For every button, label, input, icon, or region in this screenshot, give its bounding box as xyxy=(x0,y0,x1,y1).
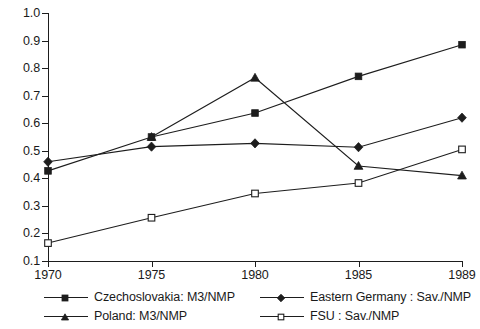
filled-triangle-icon xyxy=(44,308,88,325)
legend-label: Czechoslovakia: M3/NMP xyxy=(88,291,235,304)
data-point-marker xyxy=(354,143,363,152)
filled-diamond-icon xyxy=(260,289,304,306)
data-point-marker xyxy=(355,73,362,80)
legend-label: FSU : Sav./NMP xyxy=(304,310,399,323)
series-filled-square xyxy=(45,41,466,174)
open-square-icon xyxy=(260,308,304,325)
legend-label: Eastern Germany : Sav./NMP xyxy=(304,291,471,304)
data-point-marker xyxy=(45,240,52,247)
filled-square-icon xyxy=(44,289,88,306)
data-point-marker xyxy=(459,41,466,48)
data-point-marker xyxy=(459,146,466,153)
legend-label: Poland: M3/NMP xyxy=(88,310,187,323)
data-point-marker xyxy=(458,113,467,122)
legend-item-fsu: FSU : Sav./NMP xyxy=(260,308,399,325)
data-point-marker xyxy=(355,180,362,187)
data-point-marker xyxy=(252,110,259,117)
legend-item-eastern-germany: Eastern Germany : Sav./NMP xyxy=(260,289,471,306)
chart-legend: Czechoslovakia: M3/NMP Poland: M3/NMP Ea… xyxy=(44,289,464,327)
data-point-marker xyxy=(252,190,259,197)
legend-item-czechoslovakia: Czechoslovakia: M3/NMP xyxy=(44,289,235,306)
series-line xyxy=(48,45,462,171)
data-point-marker xyxy=(44,157,53,166)
data-point-marker xyxy=(45,168,52,175)
data-point-marker xyxy=(251,73,260,81)
data-point-marker xyxy=(148,214,155,221)
series-open-square xyxy=(45,146,466,246)
series-filled-diamond xyxy=(44,113,467,166)
legend-item-poland: Poland: M3/NMP xyxy=(44,308,187,325)
data-point-marker xyxy=(147,142,156,151)
data-point-marker xyxy=(251,139,260,148)
